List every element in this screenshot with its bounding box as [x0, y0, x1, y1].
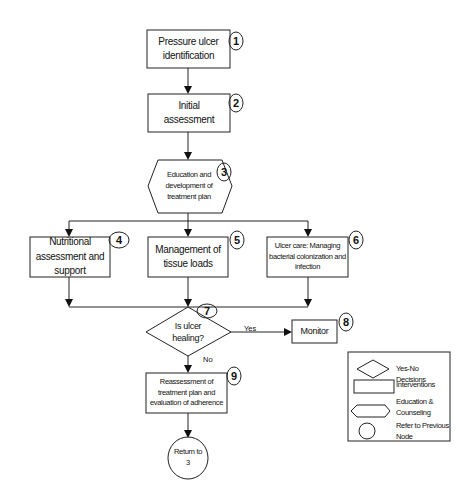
node-6-label: Ulcer care: Managing bacterial colonizat… [267, 237, 348, 277]
node-1-label: Pressure ulcer identification [147, 30, 230, 68]
no-edge-label: No [203, 355, 213, 364]
legend-circle-icon [359, 423, 375, 439]
node-2-label: Initial assessment [158, 94, 220, 132]
legend-rectangle-label: Interventions [396, 380, 450, 391]
legend-circle-label: Refer to Previous Node [396, 421, 450, 442]
legend-diamond-icon [357, 360, 389, 378]
legend-hexagon-icon [351, 405, 390, 417]
node-number-4: 4 [111, 231, 127, 249]
node-number-5: 5 [229, 231, 245, 249]
legend-rectangle-icon [354, 380, 394, 393]
node-number-8: 8 [338, 313, 354, 331]
node-8-label: Monitor [292, 320, 337, 343]
legend-hexagon-label: Education & Counseling [396, 397, 446, 418]
node-number-1: 1 [228, 32, 244, 50]
node-number-7: 7 [199, 302, 215, 320]
node-number-3: 3 [216, 163, 232, 181]
node-number-9: 9 [226, 367, 242, 385]
return-node-label: Return to 3 [172, 444, 204, 472]
node-7-label: Is ulcer healing? [163, 318, 213, 346]
node-4-label: Nutritional assessment and support [32, 237, 108, 277]
node-9-label: Reassessment of treatment plan and evalu… [146, 373, 227, 413]
node-number-6: 6 [348, 231, 364, 249]
node-3-label: Education and development of treatment p… [156, 160, 222, 213]
node-5-label: Management of tissue loads [150, 237, 226, 277]
node-number-2: 2 [228, 94, 244, 112]
yes-edge-label: Yes [244, 324, 256, 333]
